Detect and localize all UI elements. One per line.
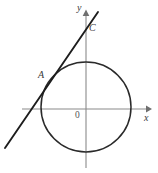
y-axis-label: y — [77, 3, 81, 13]
figure-canvas — [0, 0, 158, 173]
y-axis-arrow-icon — [83, 10, 90, 17]
point-c-label: C — [89, 23, 96, 33]
secant-line — [5, 12, 98, 148]
x-axis-label: x — [144, 113, 148, 123]
origin-label: 0 — [75, 111, 80, 121]
geometry-figure: y C A 0 x — [0, 0, 158, 173]
point-a-label: A — [38, 70, 44, 80]
